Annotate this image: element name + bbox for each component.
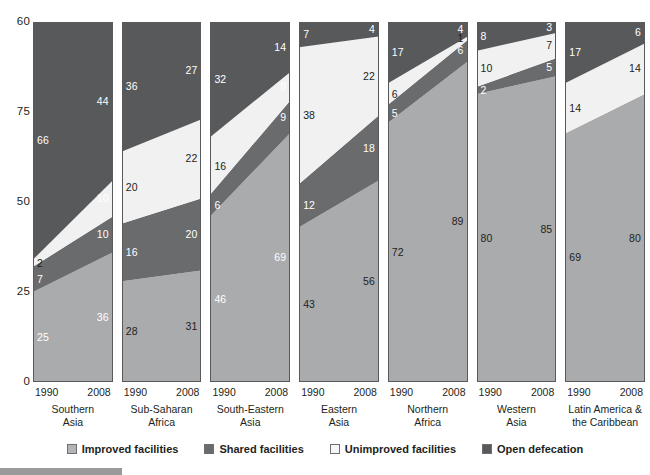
data-label: 5 [546, 62, 552, 73]
data-label: 14 [629, 63, 641, 74]
data-label: 8 [280, 81, 286, 92]
legend-swatch-icon [330, 444, 340, 454]
panel-latin-america-the-caribbean: 69141780146 [565, 22, 645, 382]
y-axis-tick-25: 25 [0, 286, 30, 298]
data-label: 17 [569, 47, 581, 58]
legend-label: Improved facilities [82, 444, 179, 455]
x-tick-year-end: 2008 [442, 386, 465, 399]
legend-label: Shared facilities [219, 444, 303, 455]
region-label-line: the Caribbean [565, 416, 645, 429]
region-label-line: South-Eastern [210, 403, 290, 416]
panel-northern-africa: 72561789614 [388, 22, 468, 382]
legend-label: Unimproved facilities [345, 444, 456, 455]
data-label: 17 [392, 47, 404, 58]
region-label-line: Africa [388, 416, 468, 429]
legend-label: Open defecation [497, 444, 583, 455]
sanitation-trend-chart: 607550250 257266361010442816203631202227… [0, 0, 650, 475]
x-tick-year-start: 1990 [212, 386, 235, 399]
x-tick-year-end: 2008 [353, 386, 376, 399]
region-label-line: Asia [210, 416, 290, 429]
data-label: 66 [37, 135, 49, 146]
panel-sub-saharan-africa: 2816203631202227 [122, 22, 202, 382]
panel-row: 2572663610104428162036312022274661632699… [33, 22, 645, 382]
data-label: 28 [126, 326, 138, 337]
data-label: 6 [214, 200, 220, 211]
data-label: 44 [97, 96, 109, 107]
legend-swatch-icon [204, 444, 214, 454]
x-tick-year-end: 2008 [87, 386, 110, 399]
region-label-line: Latin America & [565, 403, 645, 416]
legend-item-unimproved-facilities: Unimproved facilities [330, 444, 456, 455]
panel-plot-area [388, 22, 468, 382]
data-label: 8 [481, 31, 487, 42]
panel-plot-area [477, 22, 557, 382]
panel-eastern-asia: 43123875618224 [299, 22, 379, 382]
data-label: 3 [546, 22, 552, 33]
x-tick-year-end: 2008 [176, 386, 199, 399]
data-label: 10 [97, 229, 109, 240]
x-tick-year-start: 1990 [567, 386, 590, 399]
data-label: 5 [392, 108, 398, 119]
x-axis-group: 19902008WesternAsia [477, 386, 557, 432]
panel-southern-asia: 25726636101044 [33, 22, 113, 382]
data-label: 18 [363, 143, 375, 154]
x-tick-year-end: 2008 [265, 386, 288, 399]
data-label: 16 [214, 161, 226, 172]
data-label: 4 [369, 24, 375, 35]
data-label: 89 [452, 216, 464, 227]
legend-item-open-defecation: Open defecation [482, 444, 583, 455]
data-label: 6 [458, 45, 464, 56]
region-label-line: Eastern [299, 403, 379, 416]
panel-western-asia: 80210885573 [477, 22, 557, 382]
data-label: 80 [481, 233, 493, 244]
x-axis-group: 19902008NorthernAfrica [388, 386, 468, 432]
region-label: South-EasternAsia [210, 403, 290, 429]
data-label: 36 [126, 81, 138, 92]
data-label: 9 [280, 112, 286, 123]
y-axis-tick-60: 60 [0, 16, 30, 28]
data-label: 22 [186, 153, 198, 164]
x-axis-group: 19902008Sub-SaharanAfrica [122, 386, 202, 432]
data-label: 56 [363, 276, 375, 287]
y-axis-tick-0: 0 [0, 376, 30, 388]
bottom-rule [0, 468, 122, 475]
data-label: 2 [481, 85, 487, 96]
legend-swatch-icon [482, 444, 492, 454]
region-label: SouthernAsia [33, 403, 113, 429]
data-label: 72 [392, 247, 404, 258]
data-label: 46 [214, 294, 226, 305]
data-label: 7 [303, 29, 309, 40]
region-label-line: Asia [33, 416, 113, 429]
data-label: 38 [303, 110, 315, 121]
region-label-line: Northern [388, 403, 468, 416]
region-label-line: Sub-Saharan [122, 403, 202, 416]
data-label: 80 [629, 233, 641, 244]
data-label: 22 [363, 71, 375, 82]
x-tick-year-start: 1990 [301, 386, 324, 399]
x-tick-year-end: 2008 [620, 386, 643, 399]
data-label: 6 [635, 27, 641, 38]
region-label: NorthernAfrica [388, 403, 468, 429]
chart-legend: Improved facilitiesShared facilitiesUnim… [0, 440, 650, 458]
x-axis-group: 19902008South-EasternAsia [210, 386, 290, 432]
data-label: 32 [214, 74, 226, 85]
x-tick-year-start: 1990 [35, 386, 58, 399]
data-label: 31 [186, 321, 198, 332]
data-label: 7 [546, 40, 552, 51]
region-label: Latin America &the Caribbean [565, 403, 645, 429]
region-label-line: Africa [122, 416, 202, 429]
data-label: 69 [569, 252, 581, 263]
data-label: 14 [274, 42, 286, 53]
x-axis-group: 19902008EasternAsia [299, 386, 379, 432]
data-label: 85 [540, 224, 552, 235]
data-label: 20 [126, 182, 138, 193]
region-label: WesternAsia [477, 403, 557, 429]
region-label-line: Western [477, 403, 557, 416]
region-label-line: Southern [33, 403, 113, 416]
region-label: Sub-SaharanAfrica [122, 403, 202, 429]
x-tick-year-end: 2008 [531, 386, 554, 399]
panel-south-eastern-asia: 4661632699814 [210, 22, 290, 382]
x-axis-group: 19902008Latin America &the Caribbean [565, 386, 645, 432]
data-label: 10 [481, 63, 493, 74]
data-label: 7 [37, 274, 43, 285]
